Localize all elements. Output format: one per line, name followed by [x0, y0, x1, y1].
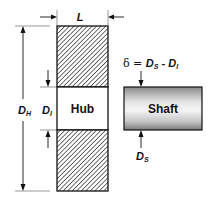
hub-upper-section	[57, 26, 108, 87]
inner-diameter-dimension: DI	[40, 70, 57, 148]
hub-label: Hub	[71, 102, 94, 116]
length-label: L	[77, 11, 84, 23]
length-dimension: L	[40, 10, 124, 26]
hub-lower-section	[57, 130, 108, 191]
shaft-label: Shaft	[148, 102, 178, 116]
inner-diameter-label: DI	[42, 104, 53, 117]
interference-equation: δ = DS - DI	[123, 57, 179, 70]
hub-shaft-diagram: Hub L DH DI Shaft	[0, 0, 213, 202]
shaft-diameter-label: DS	[136, 150, 149, 163]
